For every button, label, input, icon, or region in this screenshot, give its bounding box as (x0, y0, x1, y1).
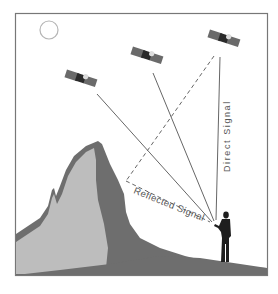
direct-signal-label: Direct Signal (222, 100, 232, 172)
person-head (223, 212, 229, 219)
multipath-diagram: Direct Signal Reflected Signal (0, 0, 278, 294)
